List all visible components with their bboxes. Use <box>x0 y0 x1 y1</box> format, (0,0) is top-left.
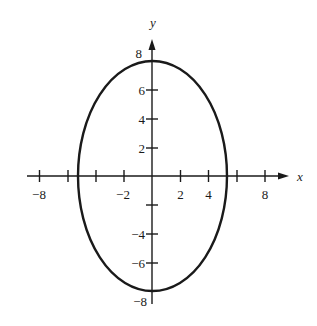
x-tick-label-p2: 2 <box>177 187 184 202</box>
y-tick-label-m6: −6 <box>131 256 145 271</box>
x-axis-label: x <box>296 169 303 184</box>
y-tick-label-m4: −4 <box>131 227 145 242</box>
y-tick-label-m8: −8 <box>133 294 147 309</box>
y-axis-label: y <box>148 15 156 30</box>
x-tick-label-m8: −8 <box>32 187 46 202</box>
y-tick-label-p6: 6 <box>139 83 146 98</box>
x-tick-label-p8: 8 <box>262 187 269 202</box>
x-tick-label-p4: 4 <box>205 187 212 202</box>
x-tick-label-m2: −2 <box>116 187 130 202</box>
ellipse-chart: −8 −2 2 4 8 8 6 4 2 −4 −6 −8 x y <box>0 0 317 326</box>
y-tick-label-p2: 2 <box>139 141 146 156</box>
x-axis-arrow-icon <box>278 173 289 180</box>
y-axis-arrow-icon <box>149 39 156 50</box>
y-tick-label-p8: 8 <box>136 46 143 61</box>
y-tick-label-p4: 4 <box>139 112 146 127</box>
